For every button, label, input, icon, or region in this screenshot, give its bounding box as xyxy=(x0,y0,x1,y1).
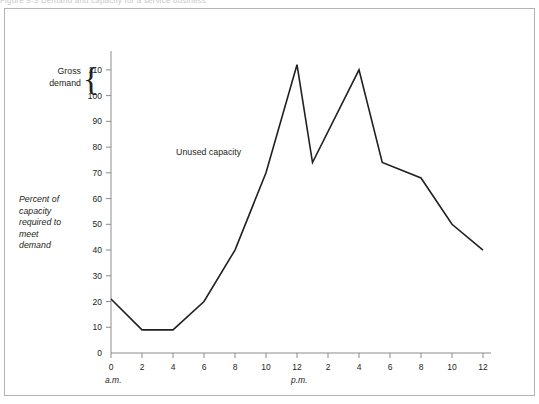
x-tick-label: 2 xyxy=(140,362,145,372)
pm-label: p.m. xyxy=(290,375,308,385)
x-tick-label: 6 xyxy=(202,362,207,372)
x-tick-label: 4 xyxy=(357,362,362,372)
x-tick-label: 0 xyxy=(109,362,114,372)
x-tick-label: 8 xyxy=(233,362,238,372)
plot-area: 0102030405060708090100110 02468101224681… xyxy=(5,9,536,397)
x-axis: 02468101224681012a.m.p.m. xyxy=(105,353,491,385)
y-axis: 0102030405060708090100110 xyxy=(88,51,111,358)
x-tick-label: 8 xyxy=(419,362,424,372)
x-tick-label: 12 xyxy=(292,362,302,372)
am-label: a.m. xyxy=(105,375,122,385)
top-caption: Figure 9-3 Demand and capacity for a ser… xyxy=(0,0,539,7)
x-tick-label: 4 xyxy=(171,362,176,372)
x-tick-label: 2 xyxy=(326,362,331,372)
y-tick-label: 100 xyxy=(88,91,102,101)
demand-line xyxy=(111,65,483,330)
x-tick-label: 6 xyxy=(388,362,393,372)
y-tick-label: 10 xyxy=(93,322,103,332)
y-tick-label: 0 xyxy=(97,348,102,358)
y-tick-label: 30 xyxy=(93,271,103,281)
y-tick-label: 110 xyxy=(88,65,102,75)
unused-capacity-annotation: Unused capacity xyxy=(176,147,242,157)
y-tick-label: 40 xyxy=(93,245,103,255)
y-tick-label: 60 xyxy=(93,194,103,204)
y-tick-label: 90 xyxy=(93,116,103,126)
top-caption-text: Figure 9-3 Demand and capacity for a ser… xyxy=(0,0,206,5)
y-tick-label: 80 xyxy=(93,142,103,152)
y-tick-label: 50 xyxy=(93,219,103,229)
x-tick-label: 10 xyxy=(261,362,271,372)
line-chart: 0102030405060708090100110 02468101224681… xyxy=(5,9,536,397)
x-tick-label: 12 xyxy=(478,362,488,372)
y-tick-label: 20 xyxy=(93,297,103,307)
chart-annotations: Unused capacity xyxy=(176,147,242,157)
x-tick-label: 10 xyxy=(447,362,457,372)
data-series xyxy=(111,65,483,330)
y-tick-label: 70 xyxy=(93,168,103,178)
figure-frame: Gross demand { Percent of capacity requi… xyxy=(4,8,535,396)
